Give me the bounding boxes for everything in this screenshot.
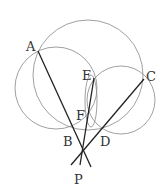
label-P: P <box>74 172 83 187</box>
label-C: C <box>146 69 156 84</box>
label-A: A <box>25 39 36 54</box>
label-E: E <box>82 68 92 83</box>
label-B: B <box>63 134 73 149</box>
geometry-diagram: A C E F B D P <box>0 0 166 191</box>
label-F: F <box>76 108 85 123</box>
label-D: D <box>100 134 110 149</box>
